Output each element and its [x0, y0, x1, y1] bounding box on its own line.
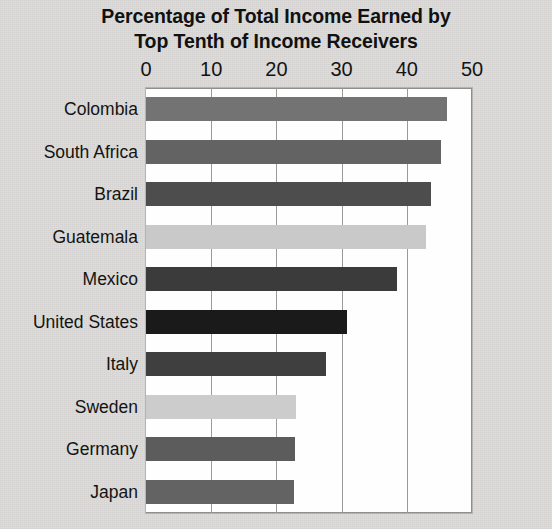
bar-guatemala[interactable]: [146, 225, 426, 249]
plot-border-bottom: [146, 512, 472, 513]
plot-border-top: [146, 88, 472, 89]
bar-mexico[interactable]: [146, 267, 397, 291]
x-axis-tick-labels: 01020304050: [0, 57, 552, 83]
bar-sweden[interactable]: [146, 395, 296, 419]
chart-title: Percentage of Total Income Earned by Top…: [0, 4, 552, 54]
x-tick-label-40: 40: [396, 57, 418, 81]
category-label-japan: Japan: [90, 482, 138, 502]
category-label-brazil: Brazil: [94, 184, 138, 204]
category-label-mexico: Mexico: [83, 269, 138, 289]
plot-area: [146, 88, 472, 513]
chart-page: Percentage of Total Income Earned by Top…: [0, 0, 552, 529]
bar-brazil[interactable]: [146, 182, 431, 206]
category-label-guatemala: Guatemala: [52, 227, 138, 247]
bar-italy[interactable]: [146, 352, 326, 376]
x-tick-label-20: 20: [265, 57, 287, 81]
category-label-germany: Germany: [66, 439, 138, 459]
category-label-united-states: United States: [33, 312, 138, 332]
bar-germany[interactable]: [146, 437, 295, 461]
y-axis-category-labels: ColombiaSouth AfricaBrazilGuatemalaMexic…: [0, 88, 142, 513]
plot-border-right: [471, 88, 472, 513]
x-tick-label-0: 0: [140, 57, 151, 81]
category-label-south-africa: South Africa: [44, 142, 138, 162]
bar-united-states[interactable]: [146, 310, 347, 334]
chart-title-line-2: Top Tenth of Income Receivers: [0, 29, 552, 54]
x-tick-label-50: 50: [461, 57, 483, 81]
category-label-italy: Italy: [106, 354, 138, 374]
category-label-sweden: Sweden: [75, 397, 138, 417]
bar-south-africa[interactable]: [146, 140, 441, 164]
x-tick-label-10: 10: [200, 57, 222, 81]
x-tick-label-30: 30: [330, 57, 352, 81]
bar-colombia[interactable]: [146, 97, 447, 121]
category-label-colombia: Colombia: [64, 99, 138, 119]
chart-title-line-1: Percentage of Total Income Earned by: [0, 4, 552, 29]
bar-japan[interactable]: [146, 480, 294, 504]
